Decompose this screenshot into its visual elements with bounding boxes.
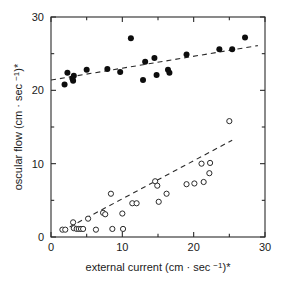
open-circle-point: [108, 191, 113, 196]
filled-circle-point: [140, 77, 146, 83]
filled-circle-point: [184, 51, 190, 57]
y-axis-title: oscular flow (cm · sec −1)*: [12, 63, 25, 190]
open-circle-point: [156, 199, 161, 204]
filled-circle-point: [229, 46, 235, 52]
filled-circle-point: [216, 46, 222, 52]
filled-circle-point: [154, 72, 160, 78]
plot-canvas: 01020300102030 external current (cm · se…: [0, 0, 288, 286]
open-circle-point: [201, 179, 206, 184]
open-circle-point: [199, 161, 204, 166]
open-circle-point: [134, 201, 139, 206]
x-axis-title: external current (cm · sec −1)*: [86, 261, 232, 274]
open-circle-point: [207, 171, 212, 176]
open-circle-series: [60, 119, 232, 233]
y-tick-label: 0: [38, 231, 44, 243]
filled-circle-point: [117, 69, 123, 75]
filled-circle-point: [104, 66, 110, 72]
filled-circle-point: [151, 55, 157, 61]
open-circle-point: [120, 211, 125, 216]
scatter-plot-figure: 01020300102030 external current (cm · se…: [0, 0, 288, 286]
filled-circle-point: [64, 70, 70, 76]
filled-circle-point: [166, 70, 172, 76]
open-circle-point: [63, 227, 68, 232]
open-circle-point: [110, 226, 115, 231]
open-circle-point: [207, 160, 212, 165]
open-circle-point: [103, 212, 108, 217]
open-circle-point: [120, 226, 125, 231]
open-circle-point: [184, 182, 189, 187]
open-circle-point: [93, 227, 98, 232]
open-circle-point: [85, 216, 90, 221]
open-circle-point: [155, 183, 160, 188]
open-circle-point: [227, 119, 232, 124]
filled-circle-point: [62, 81, 68, 87]
x-tick-label: 10: [116, 241, 128, 253]
open-circle-point: [192, 181, 197, 186]
y-tick-label: 10: [32, 158, 44, 170]
filled-circle-point: [128, 35, 134, 41]
filled-circle-point: [142, 59, 148, 65]
filled-circle-point: [71, 73, 77, 79]
filled-circle-point: [84, 67, 90, 73]
y-tick-label: 30: [32, 11, 44, 23]
y-tick-label: 20: [32, 84, 44, 96]
filled-circle-point: [242, 35, 248, 41]
open-circle-point: [164, 191, 169, 196]
filled-circle-point: [70, 78, 76, 84]
x-tick-label: 0: [48, 241, 54, 253]
x-tick-label: 30: [259, 241, 271, 253]
x-tick-label: 20: [188, 241, 200, 253]
axis-tick-labels: 01020300102030: [32, 11, 271, 253]
filled-circle-series: [62, 35, 248, 88]
open-circle-point: [81, 226, 86, 231]
open-circle-point: [71, 220, 76, 225]
